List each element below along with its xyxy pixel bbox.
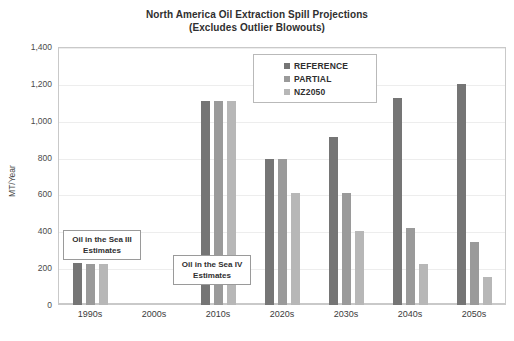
legend-swatch-icon: [284, 89, 290, 95]
bar-2030s-reference: [329, 137, 338, 305]
y-axis-label: MT/Year: [7, 151, 17, 211]
bar-1990s-partial: [86, 264, 95, 305]
annotation-line-2: Estimates: [178, 270, 246, 281]
bar-2050s-nz2050: [483, 277, 492, 305]
bar-2020s-reference: [265, 159, 274, 305]
x-axis-tick-label: 2040s: [398, 309, 423, 319]
annotation-oil-in-the-sea-iii: Oil in the Sea III Estimates: [63, 230, 141, 260]
bar-2050s-reference: [457, 84, 466, 305]
bottom-caption: [4, 330, 510, 340]
bar-2040s-nz2050: [419, 264, 428, 305]
legend-label: NZ2050: [294, 87, 325, 97]
chart-subtitle: (Excludes Outlier Blowouts): [0, 21, 514, 34]
x-axis-ticks: 1990s2000s2010s2020s2030s2040s2050s: [58, 309, 506, 325]
legend-swatch-icon: [284, 76, 290, 82]
legend-swatch-icon: [284, 63, 290, 69]
chart-title-block: North America Oil Extraction Spill Proje…: [0, 8, 514, 34]
bar-chart: North America Oil Extraction Spill Proje…: [0, 0, 514, 341]
x-axis-tick-label: 2050s: [462, 309, 487, 319]
y-axis-tick-label: 400: [4, 226, 52, 236]
y-axis-tick-label: 1,000: [4, 116, 52, 126]
bar-2030s-nz2050: [355, 231, 364, 305]
bar-2040s-partial: [406, 228, 415, 305]
bar-1990s-nz2050: [99, 264, 108, 305]
bar-2030s-partial: [342, 193, 351, 305]
y-axis-tick-label: 1,200: [4, 79, 52, 89]
x-axis-tick-label: 2020s: [270, 309, 295, 319]
annotation-line-1: Oil in the Sea III: [68, 234, 136, 245]
legend-label: PARTIAL: [294, 74, 332, 84]
x-axis-tick-label: 1990s: [78, 309, 103, 319]
annotation-line-2: Estimates: [68, 245, 136, 256]
x-axis-tick-label: 2030s: [334, 309, 359, 319]
annotation-line-1: Oil in the Sea IV: [178, 259, 246, 270]
legend-item-reference[interactable]: REFERENCE: [254, 59, 376, 72]
legend-item-partial[interactable]: PARTIAL: [254, 72, 376, 85]
x-axis-tick-label: 2000s: [142, 309, 167, 319]
bar-1990s-reference: [73, 263, 82, 305]
annotation-oil-in-the-sea-iv: Oil in the Sea IV Estimates: [173, 255, 251, 285]
y-axis-tick-label: 200: [4, 263, 52, 273]
chart-title: North America Oil Extraction Spill Proje…: [0, 8, 514, 21]
chart-legend: REFERENCEPARTIALNZ2050: [253, 54, 377, 103]
x-axis-tick-label: 2010s: [206, 309, 231, 319]
y-axis-tick-label: 1,400: [4, 42, 52, 52]
legend-label: REFERENCE: [294, 61, 348, 71]
bar-2040s-reference: [393, 98, 402, 305]
bar-2020s-nz2050: [291, 193, 300, 305]
y-axis-tick-label: 0: [4, 300, 52, 310]
legend-item-nz2050[interactable]: NZ2050: [254, 85, 376, 98]
bar-2020s-partial: [278, 159, 287, 305]
bar-2050s-partial: [470, 242, 479, 305]
